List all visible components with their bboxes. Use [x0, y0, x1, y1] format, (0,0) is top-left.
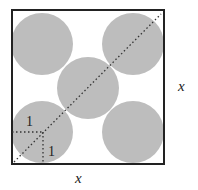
- circle-bottom-right: [102, 101, 164, 163]
- radius-label-vertical: 1: [48, 144, 55, 160]
- diagram-canvas: [0, 0, 198, 190]
- circle-top-left: [11, 13, 73, 75]
- radius-label-horizontal: 1: [26, 114, 33, 130]
- circle-top-right: [102, 13, 164, 75]
- side-label-right: x: [178, 78, 185, 95]
- side-label-bottom: x: [75, 170, 82, 187]
